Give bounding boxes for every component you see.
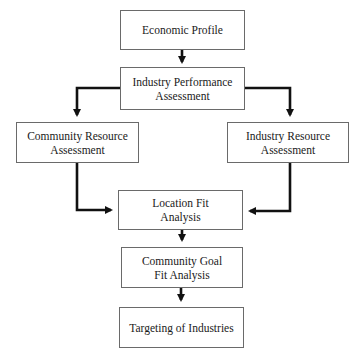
node-label: Economic Profile [142, 23, 223, 37]
flowchart-canvas: Economic Profile Industry Performance As… [0, 0, 359, 362]
node-location-fit-analysis: Location Fit Analysis [118, 190, 243, 230]
node-industry-performance-assessment: Industry Performance Assessment [120, 67, 245, 110]
arrow-industry-resource-to-location-fit [250, 163, 290, 211]
node-label: Industry Resource Assessment [246, 129, 330, 157]
node-community-resource-assessment: Community Resource Assessment [16, 122, 139, 163]
node-targeting-of-industries: Targeting of Industries [119, 307, 244, 348]
node-community-goal-fit-analysis: Community Goal Fit Analysis [121, 247, 243, 288]
arrow-community-resource-to-location-fit [77, 163, 111, 210]
node-label: Community Goal Fit Analysis [142, 254, 222, 282]
node-label: Targeting of Industries [129, 321, 233, 335]
node-label: Location Fit Analysis [152, 196, 209, 224]
arrow-performance-to-community-resource [77, 88, 120, 115]
node-label: Community Resource Assessment [27, 129, 128, 157]
node-label: Industry Performance Assessment [133, 75, 233, 103]
arrow-performance-to-industry-resource [245, 88, 290, 115]
node-industry-resource-assessment: Industry Resource Assessment [227, 122, 349, 163]
node-economic-profile: Economic Profile [120, 10, 245, 50]
